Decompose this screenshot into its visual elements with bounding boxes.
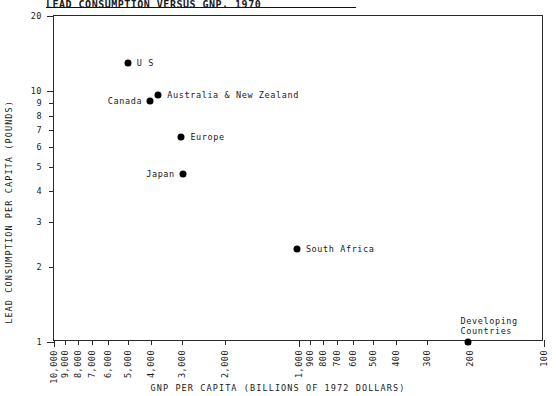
chart-title: LEAD CONSUMPTION VERSUS GNP, 1970 [46,0,356,8]
x-tick-label: 10,000 [49,350,59,384]
x-tick-label: 500 [368,350,378,367]
y-tick [47,342,54,343]
x-tick [128,340,129,345]
y-tick [49,103,54,104]
x-tick-label: 9,000 [60,350,70,378]
x-tick-label: 300 [422,350,432,367]
x-tick [396,340,397,345]
plot-area: 1234567891020 10,0009,0008,0007,0006,000… [53,15,543,341]
lead-consumption-versus-gnp-chart: LEAD CONSUMPTION VERSUS GNP, 1970 LEAD C… [0,0,556,396]
x-tick [92,340,93,345]
x-tick [299,340,300,347]
y-tick-label: 7 [2,125,42,135]
y-tick-label: 5 [2,162,42,172]
x-tick [373,340,374,345]
data-point-label: South Africa [306,244,375,254]
y-tick [49,222,54,223]
x-tick [182,340,183,345]
x-tick [151,340,152,345]
y-tick-label: 10 [2,86,42,96]
y-tick-label: 4 [2,186,42,196]
y-tick [49,267,54,268]
y-tick-label: 1 [2,337,42,347]
x-tick-label: 900 [305,350,315,367]
x-tick [78,340,79,345]
data-point-label: Japan [146,169,175,179]
x-tick-label: 400 [391,350,401,367]
y-tick-label: 9 [2,98,42,108]
x-tick [337,340,338,345]
x-tick-label: 7,000 [87,350,97,378]
y-tick-label: 2 [2,262,42,272]
data-point-label: U S [137,58,154,68]
data-point-label: Australia & New Zealand [167,90,299,100]
y-tick [49,147,54,148]
data-point[interactable] [464,339,471,346]
x-tick [353,340,354,345]
x-tick-label: 1,000 [294,350,304,378]
x-tick-label: 700 [332,350,342,367]
data-point-label: Canada [108,96,142,106]
y-tick [49,191,54,192]
x-tick [54,340,55,347]
data-point[interactable] [124,59,131,66]
x-tick [108,340,109,345]
x-tick-label: 5,000 [123,350,133,378]
y-tick [49,130,54,131]
data-point[interactable] [155,91,162,98]
y-tick [47,16,54,17]
x-tick [427,340,428,345]
x-tick-label: 3,000 [177,350,187,378]
data-point[interactable] [179,170,186,177]
data-point[interactable] [147,97,154,104]
data-point[interactable] [293,246,300,253]
x-tick [544,340,545,347]
x-tick-label: 2,000 [220,350,230,378]
x-tick [225,340,226,345]
x-tick-label: 800 [318,350,328,367]
x-tick-label: 6,000 [103,350,113,378]
y-tick [49,167,54,168]
x-tick [323,340,324,345]
y-tick [47,91,54,92]
y-tick-label: 8 [2,111,42,121]
x-tick-label: 600 [348,350,358,367]
data-point-label: Europe [190,132,224,142]
y-tick [49,116,54,117]
y-tick-label: 6 [2,142,42,152]
y-tick-label: 3 [2,217,42,227]
x-tick-label: 100 [539,350,549,367]
x-axis-title: GNP PER CAPITA (BILLIONS OF 1972 DOLLARS… [0,383,556,393]
x-tick [310,340,311,345]
data-point-label: DevelopingCountries [461,316,518,336]
x-tick-label: 4,000 [146,350,156,378]
x-tick-label: 200 [465,350,475,367]
x-tick-label: 8,000 [73,350,83,378]
y-tick-label: 20 [2,11,42,21]
x-tick [65,340,66,345]
data-point[interactable] [178,133,185,140]
